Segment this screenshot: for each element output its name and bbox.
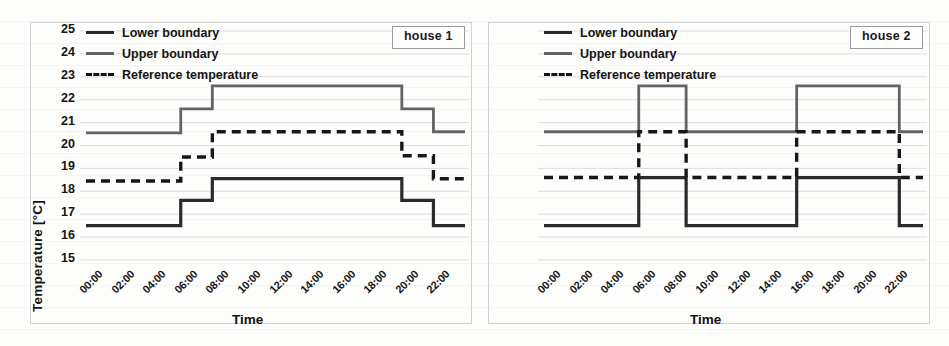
legend-item-lower-boundary: Lower boundary xyxy=(544,22,716,43)
y-axis-tick-label: 15 xyxy=(53,251,75,265)
series-lower-boundary xyxy=(86,179,465,226)
legend-item-reference-temperature: Reference temperature xyxy=(544,64,716,85)
legend-label: Upper boundary xyxy=(580,47,677,61)
y-axis-tick-label: 22 xyxy=(53,91,75,105)
series-upper-boundary xyxy=(544,86,923,132)
y-axis-tick-label: 17 xyxy=(53,205,75,219)
series-upper-boundary xyxy=(86,86,465,133)
legend-label: Reference temperature xyxy=(580,68,716,82)
legend-item-lower-boundary: Lower boundary xyxy=(86,22,258,43)
figure-canvas: house 1 Lower boundary Upper boundary Re… xyxy=(0,0,949,346)
x-axis-title-house-2: Time xyxy=(690,312,721,327)
legend-house-1: Lower boundary Upper boundary Reference … xyxy=(86,22,258,85)
legend-label: Lower boundary xyxy=(122,26,219,40)
y-axis-tick-label: 23 xyxy=(53,68,75,82)
legend-item-reference-temperature: Reference temperature xyxy=(86,64,258,85)
legend-line-swatch-icon xyxy=(86,31,114,34)
y-axis-tick-label: 20 xyxy=(53,137,75,151)
y-axis-tick-label: 21 xyxy=(53,114,75,128)
legend-dashed-swatch-icon xyxy=(544,73,572,76)
y-axis-tick-label: 19 xyxy=(53,159,75,173)
legend-label: Upper boundary xyxy=(122,47,219,61)
panel-badge-house-1: house 1 xyxy=(392,26,465,49)
legend-item-upper-boundary: Upper boundary xyxy=(86,43,258,64)
x-axis-title-house-1: Time xyxy=(232,312,263,327)
legend-dashed-swatch-icon xyxy=(86,73,114,76)
panel-badge-house-2: house 2 xyxy=(850,26,923,49)
series-reference-temperature xyxy=(86,132,465,181)
legend-line-swatch-icon xyxy=(544,31,572,34)
series-lower-boundary xyxy=(544,178,923,226)
y-axis-title: Temperature [°C] xyxy=(30,176,45,336)
legend-label: Lower boundary xyxy=(580,26,677,40)
y-axis-tick-label: 16 xyxy=(53,228,75,242)
y-axis-tick-label: 24 xyxy=(53,45,75,59)
legend-line-swatch-icon xyxy=(544,52,572,55)
y-axis-tick-label: 18 xyxy=(53,182,75,196)
series-reference-temperature xyxy=(544,132,923,178)
legend-item-upper-boundary: Upper boundary xyxy=(544,43,716,64)
y-axis-tick-label: 25 xyxy=(53,22,75,36)
legend-house-2: Lower boundary Upper boundary Reference … xyxy=(544,22,716,85)
legend-label: Reference temperature xyxy=(122,68,258,82)
legend-line-swatch-icon xyxy=(86,52,114,55)
